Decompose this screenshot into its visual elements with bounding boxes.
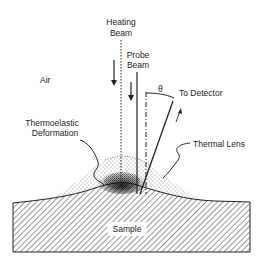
- heated-core-dots: [104, 172, 140, 190]
- deflected-beam-arrow-icon: [176, 108, 182, 122]
- probe-beam-label-line2: Beam: [127, 60, 149, 70]
- thermal-lens-leader-line: [163, 143, 190, 178]
- sample-block: [13, 183, 250, 252]
- thermoelastic-label-line2: Deformation: [32, 128, 78, 138]
- sample-label: Sample: [108, 222, 147, 236]
- theta-label: θ: [158, 84, 163, 94]
- heating-beam-arrow-icon: [111, 60, 117, 86]
- thermal-lens-label: Thermal Lens: [193, 139, 245, 149]
- probe-beam-arrow-icon: [128, 82, 134, 101]
- heating-beam-label-line2: Beam: [110, 28, 132, 38]
- to-detector-label: To Detector: [179, 88, 222, 98]
- air-label: Air: [40, 75, 50, 85]
- probe-beam-label-line1: Probe: [127, 50, 150, 60]
- thermoelastic-label-line1: Thermoelastic: [25, 118, 78, 128]
- heating-beam-label-line1: Heating: [106, 17, 135, 27]
